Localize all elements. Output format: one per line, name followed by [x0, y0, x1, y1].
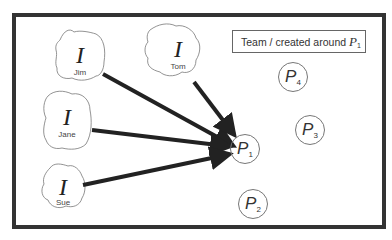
- project-p2: P2: [238, 189, 268, 219]
- member-symbol-tom: I: [158, 36, 198, 63]
- project-p3: P3: [295, 115, 325, 145]
- member-label-jane: Jane: [47, 130, 87, 139]
- project-p1: P1: [230, 134, 260, 164]
- member-symbol-jim: I: [60, 42, 100, 69]
- edge-sue-p1: [83, 155, 226, 185]
- legend-subscript: 1: [357, 42, 361, 49]
- legend-box: Team / created around P1: [232, 30, 366, 53]
- project-p4: P4: [278, 62, 308, 92]
- member-label-tom: Tom: [158, 62, 198, 71]
- member-label-jim: Jim: [60, 68, 100, 77]
- member-symbol-jane: I: [47, 104, 87, 131]
- member-symbol-sue: I: [43, 174, 83, 201]
- member-label-sue: Sue: [43, 198, 83, 207]
- legend-text: Team / created around: [241, 36, 349, 48]
- legend-symbol: P: [349, 34, 357, 49]
- edge-tom-p1: [194, 82, 232, 132]
